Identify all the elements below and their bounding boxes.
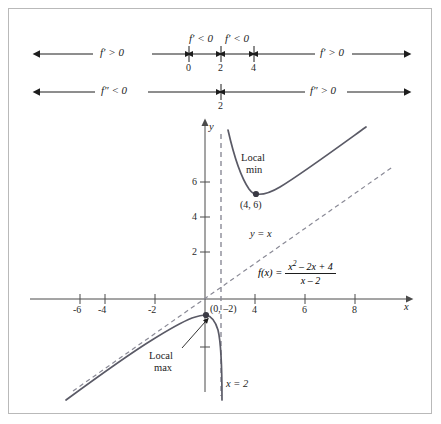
sign-line-first-derivative bbox=[40, 46, 404, 62]
sign-tick-0: 0 bbox=[186, 63, 191, 74]
y-tick-label-0: 2 bbox=[192, 247, 197, 258]
function-formula: f(x) = x2 – 2x + 4 x – 2 bbox=[258, 259, 336, 286]
x-tick-label-2: -2 bbox=[148, 305, 156, 316]
function-formula-fraction: x2 – 2x + 4 x – 2 bbox=[285, 259, 335, 286]
function-formula-denominator: x – 2 bbox=[285, 274, 335, 286]
local-min-label-line2: min bbox=[246, 164, 262, 175]
sign-label-f1-seg1: f′ > 0 bbox=[100, 47, 124, 59]
sign-tick-2-first: 2 bbox=[218, 63, 223, 74]
sign-label-f2-seg2: f″ > 0 bbox=[310, 85, 336, 97]
x-tick-label-5: 8 bbox=[352, 305, 357, 316]
y-axis-label: y bbox=[209, 121, 214, 132]
local-min-label-line1: Local bbox=[241, 152, 265, 163]
local-max-leader-arrow bbox=[182, 322, 205, 348]
graph-axes bbox=[30, 126, 406, 392]
slant-asymptote-label: y = x bbox=[250, 228, 272, 239]
sign-label-f1-seg2: f′ < 0 bbox=[189, 33, 213, 45]
local-max-point-label: (0, –2) bbox=[210, 304, 237, 315]
sign-label-f2-seg1: f″ < 0 bbox=[101, 85, 127, 97]
sign-tick-2-second: 2 bbox=[218, 101, 223, 112]
sign-label-f1-seg3: f′ < 0 bbox=[225, 33, 249, 45]
y-tick-label-2: 6 bbox=[192, 177, 197, 188]
vertical-asymptote-label: x = 2 bbox=[226, 378, 248, 389]
x-axis-label: x bbox=[404, 301, 409, 312]
local-max-label-line2: max bbox=[154, 362, 172, 373]
function-formula-numerator: x2 – 2x + 4 bbox=[285, 259, 335, 274]
sign-tick-4: 4 bbox=[251, 63, 256, 74]
x-tick-label-4: 6 bbox=[302, 305, 307, 316]
asymptotes bbox=[73, 134, 394, 396]
x-tick-label-0: -6 bbox=[73, 305, 81, 316]
slant-asymptote-line bbox=[73, 166, 394, 391]
y-tick-label-1: 4 bbox=[192, 212, 197, 223]
sign-label-f1-seg4: f′ > 0 bbox=[320, 47, 344, 59]
function-formula-lhs: f(x) = bbox=[258, 267, 282, 278]
point-local-min bbox=[253, 191, 259, 197]
point-local-max bbox=[203, 312, 209, 318]
figure-root: f′ > 0 f′ < 0 f′ < 0 f′ > 0 0 2 4 f″ < 0… bbox=[0, 0, 441, 424]
curve-left-branch bbox=[66, 315, 222, 400]
local-max-label-line1: Local bbox=[149, 350, 173, 361]
x-tick-label-1: -4 bbox=[98, 305, 106, 316]
x-tick-label-3: 4 bbox=[252, 305, 257, 316]
local-min-point-label: (4, 6) bbox=[240, 200, 262, 211]
sign-line-second-derivative bbox=[40, 84, 404, 100]
